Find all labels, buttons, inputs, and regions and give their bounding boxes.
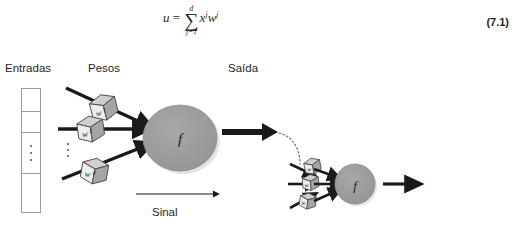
diagram-canvas: w 1 w 2 w (0, 56, 523, 230)
neuron-body: f (143, 105, 220, 174)
equation-7-1: u = d ∑ j=1 xjwj (163, 4, 219, 34)
neuron-diagram: Entradas Pesos Saída Sinal (0, 56, 523, 230)
equation-term-w-superscript: j (216, 10, 218, 19)
detail-weight-cube-2: w (302, 174, 319, 191)
summation-sigma-icon: ∑ (184, 12, 198, 29)
weight-cube-2: w 2 (76, 114, 105, 143)
output-arrow (222, 123, 278, 141)
input-vector (22, 89, 41, 213)
equation-number: (7.1) (486, 16, 509, 28)
equation-term-w: w (208, 10, 217, 25)
detail-weight-cube-1: w (303, 157, 322, 176)
equation-lhs: u (163, 10, 170, 25)
summation-lower-limit: j=1 (184, 28, 198, 36)
equation-equals: = (173, 10, 180, 25)
detail-cube-output-arrows (314, 169, 333, 201)
weights-ellipsis-icon (67, 143, 69, 157)
summation-operator: d ∑ j=1 (184, 5, 198, 35)
detail-neuron-body: f (335, 164, 377, 206)
detail-callout-curve (279, 133, 300, 164)
figure-page: u = d ∑ j=1 xjwj (7.1) Entradas Pesos Sa… (0, 0, 523, 230)
equation-band: u = d ∑ j=1 xjwj (7.1) (0, 0, 523, 56)
